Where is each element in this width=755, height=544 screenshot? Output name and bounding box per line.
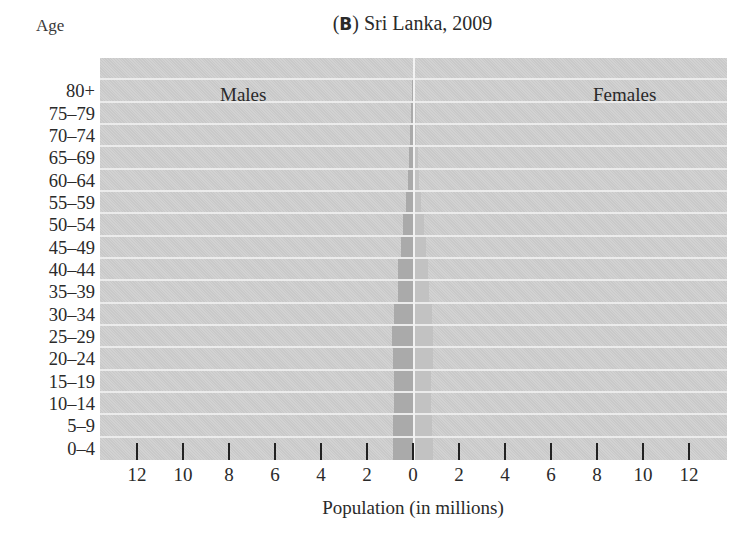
male-bar	[393, 438, 413, 460]
male-bar	[406, 192, 413, 212]
plot-area: Males Females	[100, 58, 727, 460]
male-bar	[398, 281, 413, 301]
female-bar	[413, 304, 432, 324]
panel-letter: B	[339, 14, 352, 34]
age-group-label: 70–74	[0, 125, 95, 147]
age-group-label: 45–49	[0, 237, 95, 259]
x-tick-label: 12	[117, 464, 157, 486]
x-tick-label: 6	[255, 464, 295, 486]
x-tick-mark	[182, 443, 184, 460]
male-bar	[393, 348, 413, 368]
x-tick-mark	[642, 443, 644, 460]
age-group-label: 10–14	[0, 393, 95, 415]
age-group-label: 65–69	[0, 147, 95, 169]
age-group-label: 60–64	[0, 170, 95, 192]
males-label: Males	[220, 84, 266, 106]
x-tick-mark	[412, 443, 414, 460]
male-bar	[401, 237, 413, 257]
age-group-label: 75–79	[0, 103, 95, 125]
female-bar	[413, 415, 432, 435]
x-tick-label: 4	[301, 464, 341, 486]
male-bar	[394, 393, 413, 413]
x-tick-mark	[136, 443, 138, 460]
x-tick-mark	[688, 443, 690, 460]
x-tick-label: 6	[531, 464, 571, 486]
age-group-label: 0–4	[0, 438, 95, 460]
age-group-label: 30–34	[0, 304, 95, 326]
male-bar	[392, 326, 413, 346]
x-tick-label: 0	[393, 464, 433, 486]
x-tick-label: 12	[669, 464, 709, 486]
female-bar	[413, 281, 429, 301]
female-bar	[413, 326, 433, 346]
y-axis-labels: 80+75–7970–7465–6960–6455–5950–5445–4940…	[0, 58, 95, 460]
age-group-label: 80+	[0, 80, 95, 102]
male-bar	[394, 371, 413, 391]
center-axis-line	[413, 58, 415, 460]
male-bar	[394, 304, 413, 324]
x-tick-label: 2	[439, 464, 479, 486]
x-tick-label: 8	[209, 464, 249, 486]
chart-title: (B) Sri Lanka, 2009	[0, 12, 755, 35]
male-bar	[398, 259, 413, 279]
age-group-label: 20–24	[0, 348, 95, 370]
female-bar	[413, 348, 433, 368]
male-bar	[403, 214, 413, 234]
age-group-label: 50–54	[0, 214, 95, 236]
age-group-label: 40–44	[0, 259, 95, 281]
x-tick-label: 4	[485, 464, 525, 486]
age-group-label: 15–19	[0, 371, 95, 393]
x-tick-mark	[228, 443, 230, 460]
x-tick-label: 10	[163, 464, 203, 486]
x-tick-mark	[550, 443, 552, 460]
x-axis-label: Population (in millions)	[0, 497, 755, 519]
x-tick-label: 8	[577, 464, 617, 486]
female-bar	[413, 371, 431, 391]
x-tick-mark	[366, 443, 368, 460]
female-bar	[413, 438, 433, 460]
x-tick-mark	[274, 443, 276, 460]
age-group-label: 55–59	[0, 192, 95, 214]
title-text: Sri Lanka, 2009	[364, 12, 492, 34]
female-bar	[413, 259, 428, 279]
male-bar	[393, 415, 413, 435]
age-group-label: 35–39	[0, 281, 95, 303]
x-tick-label: 10	[623, 464, 663, 486]
female-bar	[413, 393, 431, 413]
x-tick-label: 2	[347, 464, 387, 486]
x-tick-mark	[596, 443, 598, 460]
females-label: Females	[593, 84, 656, 106]
x-tick-mark	[504, 443, 506, 460]
age-group-label: 5–9	[0, 415, 95, 437]
x-tick-mark	[458, 443, 460, 460]
age-group-label: 25–29	[0, 326, 95, 348]
x-tick-mark	[320, 443, 322, 460]
